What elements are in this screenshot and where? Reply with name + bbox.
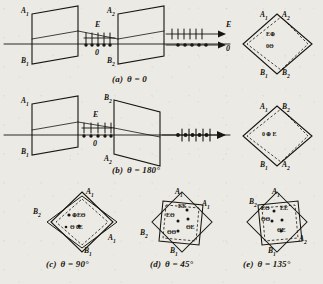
panel-e-center-line-3: ΘΘ <box>261 216 270 222</box>
panel-e-center-line-4: ΘE <box>277 227 285 233</box>
panel-e-center-line-2: EE <box>280 205 288 211</box>
panel-e-center-line-1: EΘ <box>261 205 269 211</box>
panel-e-corner-left: B2 <box>249 197 257 208</box>
panel-e-corner-right: A2 <box>299 234 307 245</box>
figure-polarizer-pairs: A1 B1 A2 B2 E 0 E 0 (a)θ = 0 A1 A2 B1 B2… <box>0 0 323 284</box>
panel-e-corner-bottom: B1 <box>268 246 276 257</box>
panel-e-drawing <box>0 0 323 284</box>
panel-e-corner-top: A1 <box>272 187 280 198</box>
panel-e-caption: (e)θ = 135° <box>243 259 291 269</box>
